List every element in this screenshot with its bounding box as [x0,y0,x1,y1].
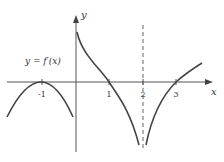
tick-label-neg1: -1 [38,90,46,99]
curve-right-branch [146,63,202,145]
tick-label-2: 2 [140,90,145,99]
x-axis-label: x [211,86,217,97]
function-label: y = f′(x) [24,56,61,66]
y-axis-arrow-icon [73,15,79,23]
curve-middle-branch [77,32,139,145]
y-axis-label: y [80,9,87,20]
x-axis-arrow-icon [205,79,213,85]
derivative-graph: -1 1 2 3 x y y = f′(x) [0,0,224,162]
curve-left-branch [7,82,73,117]
tick-label-1: 1 [106,90,111,99]
tick-label-3: 3 [173,90,178,99]
